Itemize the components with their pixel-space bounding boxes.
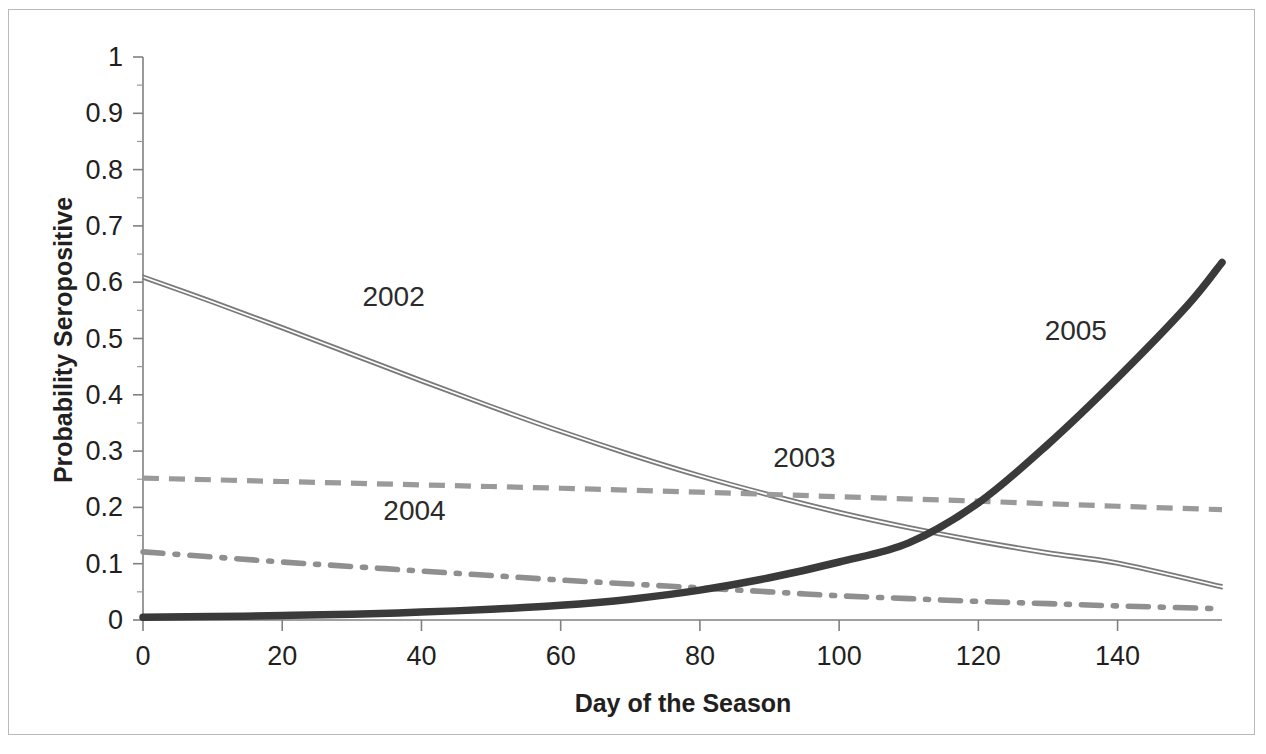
x-tick-label: 0 [135, 641, 150, 671]
x-tick-label: 40 [406, 641, 436, 671]
y-tick-label: 0.9 [85, 98, 123, 128]
y-tick-label: 0 [108, 605, 123, 635]
series-line-2004 [143, 552, 1222, 609]
x-tick-label: 60 [546, 641, 576, 671]
y-tick-label: 0.6 [85, 267, 123, 297]
x-axis-title: Day of the Season [575, 689, 792, 717]
x-tick-label: 100 [817, 641, 862, 671]
chart-figure: 00.10.20.30.40.50.60.70.80.9102040608010… [0, 0, 1266, 754]
y-tick-label: 0.8 [85, 155, 123, 185]
series-label-2003: 2003 [773, 442, 835, 473]
series-2004 [143, 552, 1222, 609]
y-tick-label: 0.2 [85, 492, 123, 522]
axis-titles: Probability Seropositive Day of the Seas… [49, 197, 791, 717]
y-tick-label: 0.1 [85, 549, 123, 579]
series-2003 [143, 478, 1222, 510]
axes-layer: 00.10.20.30.40.50.60.70.80.9102040608010… [85, 42, 1222, 671]
x-tick-label: 120 [956, 641, 1001, 671]
y-tick-label: 1 [108, 42, 123, 72]
y-axis-title: Probability Seropositive [49, 197, 77, 483]
y-tick-label: 0.5 [85, 324, 123, 354]
series-label-2002: 2002 [362, 281, 424, 312]
y-tick-label: 0.7 [85, 211, 123, 241]
y-tick-label: 0.3 [85, 436, 123, 466]
x-tick-label: 80 [685, 641, 715, 671]
y-tick-label: 0.4 [85, 380, 123, 410]
line-chart: 00.10.20.30.40.50.60.70.80.9102040608010… [0, 0, 1266, 754]
x-tick-label: 20 [267, 641, 297, 671]
series-label-2005: 2005 [1045, 315, 1107, 346]
series-label-2004: 2004 [383, 495, 445, 526]
series-line-2003 [143, 478, 1222, 510]
x-tick-label: 140 [1095, 641, 1140, 671]
